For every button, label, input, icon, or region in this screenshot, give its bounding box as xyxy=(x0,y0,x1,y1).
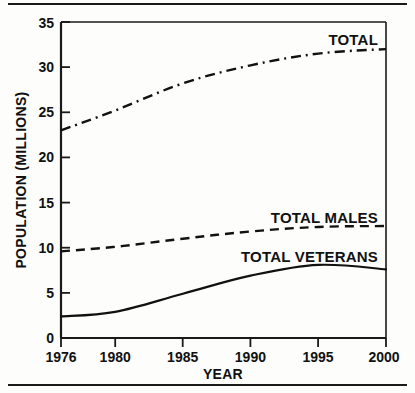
chart-svg: 0 5 10 15 20 25 30 35 1976 1980 1985 199… xyxy=(0,0,415,393)
y-axis-tick-labels: 0 5 10 15 20 25 30 35 xyxy=(38,15,54,347)
series-label-total-males: TOTAL MALES xyxy=(271,209,378,226)
y-tick-label-0: 0 xyxy=(46,330,54,346)
x-tick-label-2000: 2000 xyxy=(368,349,399,365)
y-tick-label-15: 15 xyxy=(38,195,54,211)
x-axis-tick-labels: 1976 1980 1985 1990 1995 2000 xyxy=(45,349,399,365)
figure-page: 0 5 10 15 20 25 30 35 1976 1980 1985 199… xyxy=(0,0,415,393)
series-line-total-veterans xyxy=(61,265,386,317)
x-tick-label-1990: 1990 xyxy=(235,349,266,365)
x-tick-label-1995: 1995 xyxy=(303,349,334,365)
x-axis-title: YEAR xyxy=(203,366,243,382)
y-tick-label-5: 5 xyxy=(46,285,54,301)
plot-frame xyxy=(61,22,386,338)
line-chart-figure: 0 5 10 15 20 25 30 35 1976 1980 1985 199… xyxy=(0,0,415,393)
y-tick-label-20: 20 xyxy=(38,149,54,165)
series-label-total-veterans: TOTAL VETERANS xyxy=(241,248,378,265)
y-tick-label-10: 10 xyxy=(38,240,54,256)
y-tick-label-25: 25 xyxy=(38,104,54,120)
x-tick-label-1985: 1985 xyxy=(167,349,198,365)
y-axis-title: POPULATION (MILLIONS) xyxy=(13,91,29,268)
x-axis-ticks xyxy=(61,338,386,347)
series-label-total: TOTAL xyxy=(328,31,378,48)
series-line-total xyxy=(61,49,386,130)
x-tick-label-1976: 1976 xyxy=(45,349,76,365)
y-tick-label-30: 30 xyxy=(38,59,54,75)
y-axis-ticks xyxy=(61,22,70,338)
x-tick-label-1980: 1980 xyxy=(100,349,131,365)
y-tick-label-35: 35 xyxy=(38,15,54,31)
